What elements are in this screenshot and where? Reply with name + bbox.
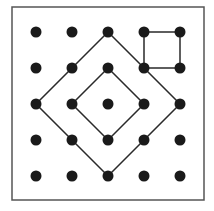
peg-dot	[103, 27, 114, 38]
peg-dot	[67, 135, 78, 146]
peg-dot	[175, 63, 186, 74]
small-square	[144, 32, 180, 68]
peg-dot	[31, 99, 42, 110]
peg-dot	[175, 99, 186, 110]
peg-dot	[103, 171, 114, 182]
peg-dot	[103, 135, 114, 146]
peg-dot	[67, 27, 78, 38]
peg-dot	[31, 171, 42, 182]
peg-dot	[31, 135, 42, 146]
peg-dot	[31, 27, 42, 38]
peg-dot	[175, 135, 186, 146]
dot-grid	[31, 27, 186, 182]
peg-dot	[103, 99, 114, 110]
peg-dot	[139, 171, 150, 182]
peg-dot	[139, 63, 150, 74]
peg-dot	[103, 63, 114, 74]
peg-dot	[139, 27, 150, 38]
geoboard-diagram	[0, 0, 214, 211]
peg-dot	[67, 171, 78, 182]
peg-dot	[67, 99, 78, 110]
peg-dot	[175, 171, 186, 182]
peg-dot	[175, 27, 186, 38]
peg-dot	[31, 63, 42, 74]
peg-dot	[67, 63, 78, 74]
peg-dot	[139, 99, 150, 110]
peg-dot	[139, 135, 150, 146]
